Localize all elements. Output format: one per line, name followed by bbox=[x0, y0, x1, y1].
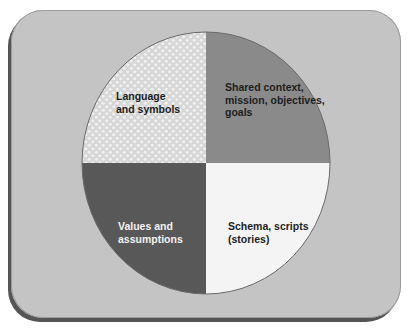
label-line: Shared context, bbox=[225, 81, 325, 94]
label-line: and symbols bbox=[116, 103, 180, 116]
label-line: Schema, scripts bbox=[228, 220, 309, 233]
label-line: goals bbox=[225, 106, 325, 119]
quadrant-label-schema-scripts: Schema, scripts (stories) bbox=[228, 220, 309, 245]
quadrant-label-values-assumptions: Values and assumptions bbox=[118, 220, 183, 245]
label-line: assumptions bbox=[118, 233, 183, 246]
label-line: mission, objectives, bbox=[225, 94, 325, 107]
label-line: Values and bbox=[118, 220, 183, 233]
quadrant-label-shared-context: Shared context, mission, objectives, goa… bbox=[225, 81, 325, 119]
label-line: Language bbox=[116, 90, 180, 103]
quadrant-circle bbox=[0, 0, 412, 328]
quadrant-label-language-symbols: Language and symbols bbox=[116, 90, 180, 115]
label-line: (stories) bbox=[228, 233, 309, 246]
